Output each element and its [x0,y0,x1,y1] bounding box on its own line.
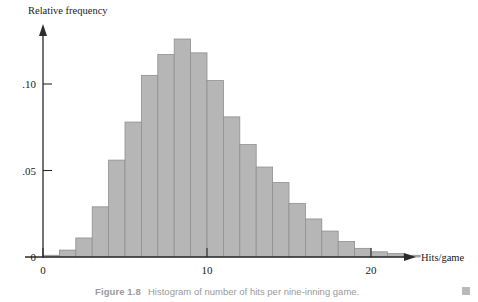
histogram-bar [305,219,321,257]
figure-caption-text: Histogram of number of hits per nine-inn… [148,286,359,297]
histogram-bar [273,183,289,257]
histogram-plot: .05.10001020Relative frequencyHits/game [0,0,478,302]
histogram-bar [92,207,108,257]
histogram-bar [125,122,141,257]
histogram-bar [371,252,387,257]
x-axis-arrow [404,253,416,261]
histogram-bar [59,250,75,257]
histogram-bar [174,39,190,257]
y-axis-title: Relative frequency [28,5,108,16]
y-axis-arrow [39,24,47,36]
x-tick-label: 20 [366,264,378,276]
y-tick-label: .10 [22,78,36,90]
y-tick-label: .05 [22,165,36,177]
histogram-bar [109,160,125,257]
histogram-bar [191,53,207,257]
histogram-bar [158,55,174,257]
x-axis-title: Hits/game [421,252,464,263]
figure-container: .05.10001020Relative frequencyHits/game … [0,0,478,302]
figure-caption-label: Figure 1.8 [95,286,141,297]
figure-caption: Figure 1.8 Histogram of number of hits p… [0,283,478,302]
histogram-bar [76,238,92,257]
x-tick-label: 0 [40,264,46,276]
x-tick-label: 10 [202,264,214,276]
histogram-bar [223,117,239,257]
histogram-bar [207,81,223,257]
histogram-bar [240,145,256,257]
histogram-bar [355,248,371,257]
bars-group [43,39,420,257]
histogram-bar [256,167,272,257]
histogram-bar [141,75,157,257]
histogram-bar [289,203,305,257]
caption-marker-square [462,287,470,295]
histogram-bar [338,241,354,257]
histogram-bar [322,231,338,257]
y-zero-label: 0 [31,251,37,263]
